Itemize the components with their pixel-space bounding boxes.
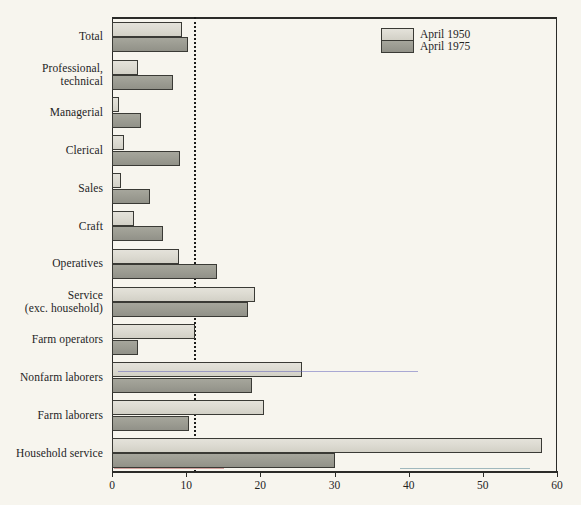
bar-april-1950: [112, 60, 138, 75]
bar-april-1975: [112, 453, 335, 468]
x-tick: [557, 471, 558, 477]
bar-april-1950: [112, 211, 134, 226]
bar-april-1975: [112, 302, 248, 317]
category-label-line: technical: [0, 75, 103, 88]
bar-group: [112, 249, 557, 280]
bar-group: [112, 438, 557, 469]
legend-swatch-april-1975: [382, 41, 413, 52]
bar-april-1950: [112, 249, 179, 264]
bar-april-1975: [112, 226, 163, 241]
bar-group: [112, 400, 557, 431]
x-tick: [186, 471, 187, 477]
category-label-line: Sales: [0, 182, 103, 195]
bar-april-1950: [112, 22, 182, 37]
bar-april-1975: [112, 37, 188, 52]
x-tick-label: 10: [180, 479, 192, 491]
category-label: Operatives: [0, 257, 108, 270]
bar-april-1975: [112, 151, 180, 166]
category-label: Farm laborers: [0, 409, 108, 422]
x-tick-label: 60: [551, 479, 563, 491]
x-tick: [112, 471, 113, 477]
legend-labels: April 1950 April 1975: [420, 28, 470, 52]
bar-april-1975: [112, 75, 173, 90]
x-tick-label: 20: [255, 479, 267, 491]
bar-april-1975: [112, 416, 189, 431]
category-label-line: Household service: [0, 447, 103, 460]
bar-april-1950: [112, 438, 542, 453]
category-label-line: (exc. household): [0, 302, 103, 315]
bar-april-1975: [112, 378, 252, 393]
bar-april-1950: [112, 324, 195, 339]
category-label-line: Craft: [0, 220, 103, 233]
bar-april-1950: [112, 97, 119, 112]
category-label: Service(exc. household): [0, 289, 108, 315]
bar-april-1950: [112, 400, 264, 415]
bar-april-1950: [112, 135, 124, 150]
bar-group: [112, 362, 557, 393]
x-tick: [409, 471, 410, 477]
bar-group: [112, 173, 557, 204]
category-label: Sales: [0, 182, 108, 195]
category-label: Farm operators: [0, 333, 108, 346]
bar-april-1950: [112, 287, 255, 302]
legend-label-april-1975: April 1975: [420, 40, 470, 52]
category-label-line: Farm operators: [0, 333, 103, 346]
category-label-line: Farm laborers: [0, 409, 103, 422]
legend-swatch-april-1950: [382, 29, 413, 41]
category-label: Clerical: [0, 144, 108, 157]
bar-april-1975: [112, 189, 150, 204]
bar-april-1975: [112, 113, 141, 128]
bar-group: [112, 97, 557, 128]
bar-group: [112, 324, 557, 355]
category-label-line: Professional,: [0, 62, 103, 75]
category-label: Managerial: [0, 106, 108, 119]
bar-group: [112, 287, 557, 318]
category-label-line: Nonfarm laborers: [0, 371, 103, 384]
category-label-line: Service: [0, 289, 103, 302]
category-label: Total: [0, 30, 108, 43]
x-tick-label: 30: [329, 479, 341, 491]
bar-group: [112, 211, 557, 242]
bar-april-1950: [112, 173, 121, 188]
x-tick-label: 50: [477, 479, 489, 491]
x-tick: [483, 471, 484, 477]
x-tick: [260, 471, 261, 477]
x-tick-label: 0: [109, 479, 115, 491]
category-label: Household service: [0, 447, 108, 460]
category-label: Craft: [0, 220, 108, 233]
category-label-line: Total: [0, 30, 103, 43]
bar-group: [112, 22, 557, 53]
bar-april-1975: [112, 264, 217, 279]
bar-april-1950: [112, 362, 302, 377]
bar-april-1975: [112, 340, 138, 355]
legend-label-april-1950: April 1950: [420, 28, 470, 40]
bar-group: [112, 135, 557, 166]
category-label-line: Managerial: [0, 106, 103, 119]
category-label-line: Operatives: [0, 257, 103, 270]
x-tick: [335, 471, 336, 477]
bar-group: [112, 60, 557, 91]
chart-container: TotalProfessional,technicalManagerialCle…: [0, 0, 581, 505]
legend: April 1950 April 1975: [381, 28, 470, 53]
category-label: Professional,technical: [0, 62, 108, 88]
category-label-line: Clerical: [0, 144, 103, 157]
x-tick-label: 40: [403, 479, 415, 491]
category-label: Nonfarm laborers: [0, 371, 108, 384]
legend-swatches: [381, 28, 414, 53]
